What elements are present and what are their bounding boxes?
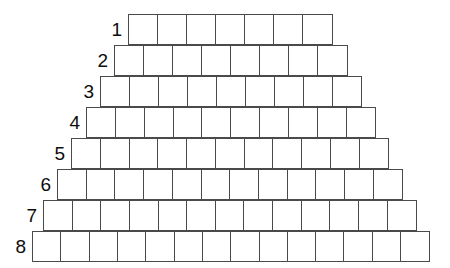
grid-cell[interactable] (230, 45, 261, 76)
grid-cell[interactable] (400, 231, 430, 262)
pyramid-row (128, 14, 333, 45)
row-label-4: 4 (58, 113, 80, 132)
pyramid-row (57, 169, 403, 200)
grid-cell[interactable] (329, 200, 359, 231)
grid-cell[interactable] (201, 169, 231, 200)
grid-cell[interactable] (387, 200, 417, 231)
grid-cell[interactable] (114, 45, 145, 76)
grid-cell[interactable] (301, 200, 331, 231)
grid-cell[interactable] (186, 200, 216, 231)
grid-cell[interactable] (216, 76, 247, 107)
grid-cell[interactable] (272, 138, 302, 169)
grid-cell[interactable] (315, 231, 345, 262)
pyramid-row (114, 45, 348, 76)
grid-cell[interactable] (143, 169, 173, 200)
grid-cell[interactable] (230, 107, 260, 138)
grid-cell[interactable] (215, 14, 246, 45)
grid-cell[interactable] (86, 107, 116, 138)
grid-cell[interactable] (244, 138, 274, 169)
grid-cell[interactable] (158, 200, 188, 231)
grid-cell[interactable] (143, 45, 174, 76)
grid-cell[interactable] (72, 200, 102, 231)
grid-cell[interactable] (287, 169, 317, 200)
grid-cell[interactable] (144, 107, 174, 138)
grid-cell[interactable] (157, 14, 188, 45)
grid-cell[interactable] (201, 45, 232, 76)
grid-cell[interactable] (358, 200, 388, 231)
grid-cell[interactable] (157, 138, 187, 169)
pyramid-figure: 12345678 (0, 0, 450, 268)
grid-cell[interactable] (201, 107, 231, 138)
grid-cell[interactable] (100, 76, 131, 107)
grid-cell[interactable] (100, 138, 130, 169)
grid-cell[interactable] (274, 76, 305, 107)
grid-cell[interactable] (259, 45, 290, 76)
grid-cell[interactable] (202, 231, 232, 262)
grid-cell[interactable] (89, 231, 119, 262)
grid-cell[interactable] (243, 200, 273, 231)
grid-cell[interactable] (172, 169, 202, 200)
grid-cell[interactable] (100, 200, 130, 231)
grid-cell[interactable] (158, 76, 189, 107)
grid-cell[interactable] (174, 231, 204, 262)
row-label-6: 6 (29, 175, 51, 194)
grid-cell[interactable] (86, 169, 116, 200)
grid-cell[interactable] (301, 138, 331, 169)
grid-cell[interactable] (60, 231, 90, 262)
grid-cell[interactable] (359, 138, 389, 169)
grid-cell[interactable] (244, 14, 275, 45)
grid-cell[interactable] (173, 107, 203, 138)
grid-cell[interactable] (302, 14, 333, 45)
pyramid-row (43, 200, 417, 231)
row-label-5: 5 (43, 144, 65, 163)
row-label-8: 8 (4, 237, 26, 256)
grid-cell[interactable] (315, 169, 345, 200)
grid-cell[interactable] (186, 138, 216, 169)
grid-cell[interactable] (186, 14, 217, 45)
grid-cell[interactable] (372, 231, 402, 262)
grid-cell[interactable] (332, 76, 363, 107)
grid-cell[interactable] (129, 200, 159, 231)
grid-cell[interactable] (288, 45, 319, 76)
grid-cell[interactable] (43, 200, 73, 231)
grid-cell[interactable] (273, 14, 304, 45)
grid-cell[interactable] (344, 169, 374, 200)
grid-cell[interactable] (259, 107, 289, 138)
grid-cell[interactable] (303, 76, 334, 107)
pyramid-row (100, 76, 362, 107)
pyramid-row (32, 231, 430, 262)
grid-cell[interactable] (172, 45, 203, 76)
grid-cell[interactable] (57, 169, 87, 200)
grid-cell[interactable] (373, 169, 403, 200)
grid-cell[interactable] (114, 169, 144, 200)
grid-cell[interactable] (145, 231, 175, 262)
row-label-7: 7 (15, 206, 37, 225)
grid-cell[interactable] (317, 45, 348, 76)
grid-cell[interactable] (230, 231, 260, 262)
row-label-1: 1 (100, 20, 122, 39)
grid-cell[interactable] (287, 231, 317, 262)
pyramid-row (71, 138, 389, 169)
grid-cell[interactable] (215, 200, 245, 231)
grid-cell[interactable] (117, 231, 147, 262)
grid-cell[interactable] (343, 231, 373, 262)
grid-cell[interactable] (115, 107, 145, 138)
grid-cell[interactable] (258, 169, 288, 200)
grid-cell[interactable] (330, 138, 360, 169)
grid-cell[interactable] (128, 14, 159, 45)
grid-cell[interactable] (129, 138, 159, 169)
grid-cell[interactable] (346, 107, 376, 138)
grid-cell[interactable] (272, 200, 302, 231)
row-label-3: 3 (72, 82, 94, 101)
grid-cell[interactable] (288, 107, 318, 138)
grid-cell[interactable] (215, 138, 245, 169)
grid-cell[interactable] (259, 231, 289, 262)
grid-cell[interactable] (32, 231, 62, 262)
grid-cell[interactable] (317, 107, 347, 138)
grid-cell[interactable] (245, 76, 276, 107)
grid-cell[interactable] (229, 169, 259, 200)
row-label-2: 2 (86, 51, 108, 70)
grid-cell[interactable] (187, 76, 218, 107)
grid-cell[interactable] (71, 138, 101, 169)
grid-cell[interactable] (129, 76, 160, 107)
